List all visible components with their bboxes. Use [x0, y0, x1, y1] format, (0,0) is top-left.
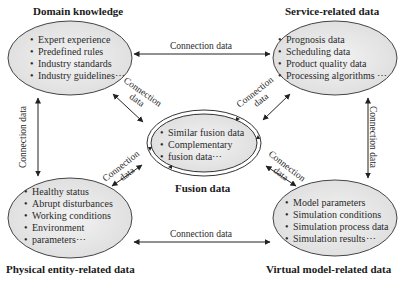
list-item: Industry guidelines⋯: [30, 70, 125, 82]
list-item: Prognosis data: [278, 34, 387, 46]
service-title: Service-related data: [285, 5, 379, 17]
fusion-list: Similar fusion data Complementary fusion…: [160, 127, 244, 163]
list-item: Abrupt disturbances: [24, 198, 113, 210]
list-item: Scheduling data: [278, 46, 387, 58]
connection-label-top: Connection data: [170, 41, 232, 51]
list-item: Simulation results⋯: [285, 233, 389, 245]
list-item: Model parameters: [285, 197, 389, 209]
connection-label-left: Connection data: [18, 106, 28, 168]
list-item: Processing algorithms ⋯: [278, 70, 387, 82]
physical-title: Physical entity-related data: [6, 263, 135, 275]
list-item: Complementary: [160, 139, 244, 151]
physical-list: Healthy status Abrupt disturbances Worki…: [24, 186, 113, 246]
connection-label-right: Connection data: [368, 106, 378, 168]
list-item-continuation: parameters⋯: [24, 234, 113, 246]
list-item: Environment: [24, 222, 113, 234]
list-item: Similar fusion data: [160, 127, 244, 139]
list-item: Predefined rules: [30, 46, 125, 58]
domain-list: Expert experience Predefined rules Indus…: [30, 34, 125, 82]
connection-label-bottom: Connection data: [170, 229, 232, 239]
service-list: Prognosis data Scheduling data Product q…: [278, 34, 387, 82]
list-item-continuation: fusion data⋯: [160, 151, 244, 163]
fusion-title: Fusion data: [175, 182, 230, 194]
list-item: Simulation conditions: [285, 209, 389, 221]
list-item: Healthy status: [24, 186, 113, 198]
domain-title: Domain knowledge: [33, 5, 123, 17]
list-item: Industry standards: [30, 58, 125, 70]
list-item: Expert experience: [30, 34, 125, 46]
list-item: Simulation process data: [285, 221, 389, 233]
virtual-title: Virtual model-related data: [266, 263, 391, 275]
list-item: Product quality data: [278, 58, 387, 70]
virtual-list: Model parameters Simulation conditions S…: [285, 197, 389, 245]
list-item: Working conditions: [24, 210, 113, 222]
